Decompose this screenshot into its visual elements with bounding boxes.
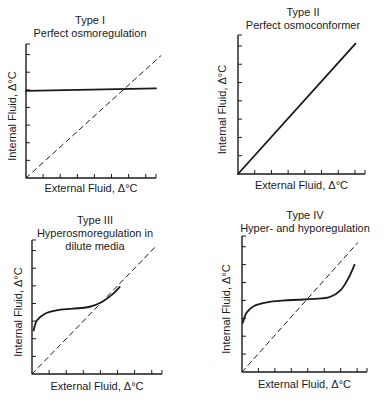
x-axis-label: External Fluid, Δ°C (255, 179, 348, 191)
isosmotic-dashed-line (26, 56, 161, 178)
y-axis-label: Internal Fluid, Δ°C (12, 267, 24, 356)
osmoregulation-figure: Type IPerfect osmoregulationExternal Flu… (0, 0, 385, 404)
chart-subtitle: Hyper- and hyporegulation (240, 222, 370, 234)
internal-fluid-line (34, 287, 120, 331)
internal-fluid-line (26, 88, 156, 91)
chart-subtitle: Perfect osmoregulation (33, 27, 146, 39)
chart-subtitle: Perfect osmoconformer (246, 19, 361, 31)
x-axis-label: External Fluid, Δ°C (50, 380, 143, 392)
chart-subtitle: Hyperosmoregulation in (37, 227, 153, 239)
chart-panel-1: Type IPerfect osmoregulationExternal Flu… (6, 14, 161, 194)
chart-subtitle: dilute media (65, 240, 125, 252)
x-axis-label: External Fluid, Δ°C (44, 182, 137, 194)
isosmotic-dashed-line (32, 245, 157, 374)
chart-title: Type II (286, 6, 319, 18)
internal-fluid-line (238, 44, 355, 174)
isosmotic-dashed-line (242, 243, 358, 372)
chart-panel-4: Type IVHyper- and hyporegulationExternal… (220, 209, 370, 390)
y-axis-label: Internal Fluid, Δ°C (216, 65, 228, 154)
x-axis-label: External Fluid, Δ°C (258, 378, 351, 390)
internal-fluid-line (243, 265, 355, 323)
chart-title: Type III (77, 214, 113, 226)
y-axis-label: Internal Fluid, Δ°C (220, 264, 232, 353)
chart-title: Type I (75, 14, 105, 26)
chart-panel-3: Type IIIHyperosmoregulation indilute med… (12, 214, 162, 392)
chart-panel-2: Type IIPerfect osmoconformerExternal Flu… (216, 6, 365, 191)
y-axis-label: Internal Fluid, Δ°C (6, 71, 18, 160)
chart-title: Type IV (286, 209, 324, 221)
